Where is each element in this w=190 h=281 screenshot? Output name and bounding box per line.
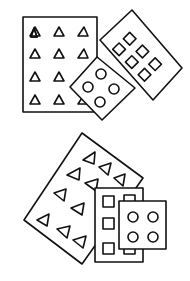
circle-card (119, 201, 166, 249)
bottom-group (24, 133, 166, 264)
top-group (23, 10, 182, 120)
illustration-canvas (0, 0, 190, 281)
